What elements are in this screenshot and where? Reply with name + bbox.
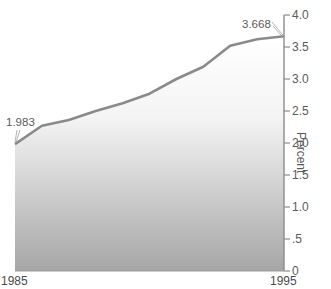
x-tick-label: 1985 [1,274,28,288]
data-annotation: 1.983 [6,116,35,128]
area-chart: 0.51.01.52.02.53.03.54.0 19851995 1.9833… [0,0,331,289]
y-tick-label: 2.5 [292,104,309,118]
y-tick-label: 3.0 [292,72,309,86]
annotation-leader [273,26,282,36]
y-tick-label: 3.5 [292,40,309,54]
y-tick-label: 4.0 [292,8,309,22]
annotation-leader [272,22,283,35]
y-axis-label: Percent [294,132,308,172]
area-fill [15,36,284,271]
y-tick-label: 1.0 [292,200,309,214]
data-annotation: 3.668 [242,18,271,30]
y-tick-label: .5 [292,232,302,246]
x-tick-label: 1995 [270,274,297,288]
x-axis-labels: 19851995 [1,274,297,288]
